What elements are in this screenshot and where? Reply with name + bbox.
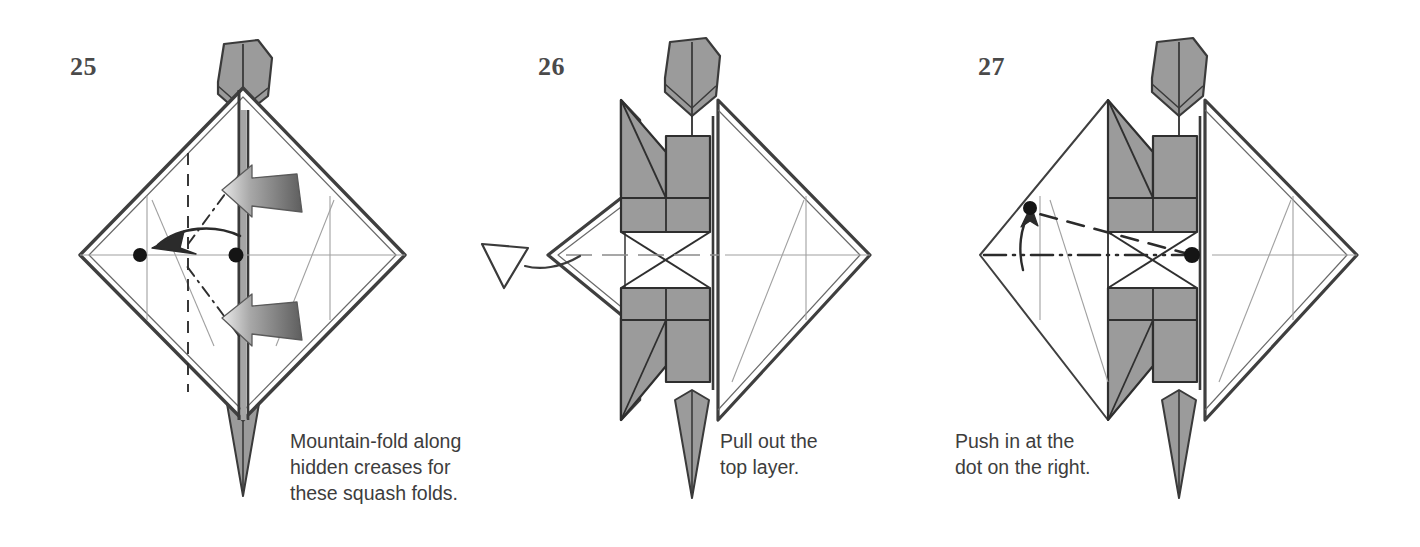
- diamond-body-right: [718, 100, 870, 420]
- reference-dot-center: [229, 248, 244, 263]
- diamond-body-left: [548, 195, 625, 318]
- diamond-body-right: [1205, 100, 1357, 420]
- dorsal-fin-shape: [665, 38, 720, 116]
- step-panel-25: 25: [0, 0, 470, 547]
- reference-dot-center: [1184, 247, 1200, 263]
- center-x-crease: [1108, 232, 1197, 288]
- center-x-crease: [621, 232, 710, 288]
- tail-spike-shape: [675, 390, 709, 498]
- origami-instruction-sheet: 25: [0, 0, 1420, 547]
- squash-flap-upper: [1108, 100, 1197, 232]
- reference-dot-left: [133, 248, 147, 262]
- reference-dot-upper-left: [1023, 201, 1037, 215]
- diamond-body-left: [980, 100, 1108, 420]
- step-caption-26: Pull out the top layer.: [720, 428, 920, 480]
- squash-flap-upper: [621, 100, 710, 232]
- step-caption-27: Push in at the dot on the right.: [955, 428, 1175, 480]
- dorsal-fin-shape: [1152, 38, 1207, 116]
- step-panel-26: 26: [470, 0, 920, 547]
- step-panel-27: 27: [920, 0, 1420, 547]
